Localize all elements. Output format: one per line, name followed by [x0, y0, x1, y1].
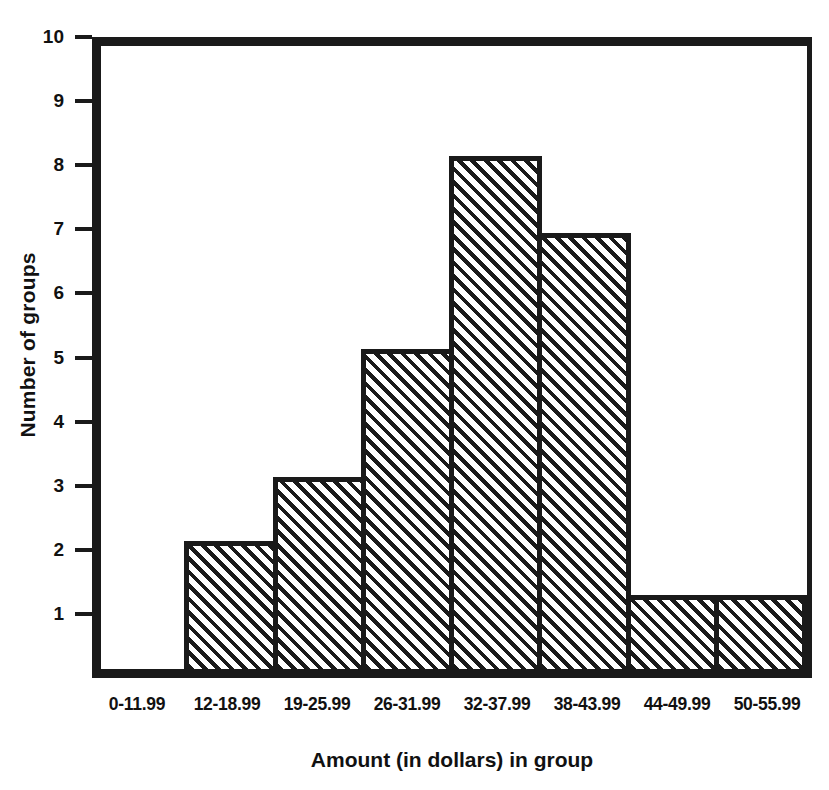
y-axis-tick-label: 2 [53, 539, 64, 561]
y-axis-tick-mark [75, 548, 92, 552]
x-axis-tick-label: 19-25.99 [272, 694, 362, 724]
bars-group [101, 46, 807, 669]
y-axis-tick-label: 8 [53, 154, 64, 176]
histogram-figure: Number of groups 12345678910 0-11.9912-1… [0, 0, 829, 790]
histogram-bar[interactable] [626, 595, 719, 669]
y-axis-tick-label: 10 [43, 26, 64, 48]
x-axis-ticks: 0-11.9912-18.9919-25.9926-31.9932-37.993… [92, 694, 812, 724]
y-axis-tick-mark [75, 356, 92, 360]
y-axis-tick-label: 6 [53, 282, 64, 304]
y-axis-tick-mark [75, 420, 92, 424]
histogram-bar[interactable] [449, 156, 542, 669]
histogram-bar[interactable] [361, 349, 454, 670]
x-axis-tick-label: 32-37.99 [452, 694, 542, 724]
y-axis-tick-label: 9 [53, 90, 64, 112]
x-axis-tick-label: 12-18.99 [182, 694, 272, 724]
x-axis-tick-label: 26-31.99 [362, 694, 452, 724]
x-axis-tick-label: 44-49.99 [632, 694, 722, 724]
y-axis-tick-mark [75, 227, 92, 231]
y-axis-ticks: 12345678910 [0, 0, 100, 790]
y-axis-tick-label: 5 [53, 347, 64, 369]
y-axis-tick-mark [75, 484, 92, 488]
y-axis-tick-label: 3 [53, 475, 64, 497]
y-axis-tick-mark [75, 291, 92, 295]
histogram-bar[interactable] [537, 233, 630, 669]
x-axis-tick-label: 0-11.99 [92, 694, 182, 724]
y-axis-tick-mark [75, 612, 92, 616]
histogram-bar[interactable] [714, 595, 807, 669]
y-axis-tick-mark [75, 35, 92, 39]
y-axis-tick-mark [75, 99, 92, 103]
y-axis-tick-label: 4 [53, 411, 64, 433]
plot-area [92, 37, 812, 678]
x-axis-tick-label: 38-43.99 [542, 694, 632, 724]
histogram-bar[interactable] [184, 541, 277, 669]
histogram-bar[interactable] [273, 477, 366, 669]
x-axis-title: Amount (in dollars) in group [92, 748, 812, 772]
x-axis-tick-label: 50-55.99 [722, 694, 812, 724]
y-axis-tick-label: 1 [53, 603, 64, 625]
y-axis-tick-label: 7 [53, 218, 64, 240]
y-axis-tick-mark [75, 163, 92, 167]
